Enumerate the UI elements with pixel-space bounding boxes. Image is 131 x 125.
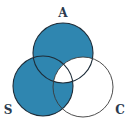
- label-c: C: [115, 103, 125, 117]
- venn-diagram: A S C: [0, 0, 131, 125]
- label-s: S: [4, 103, 13, 117]
- venn-svg: A S C: [0, 0, 131, 125]
- label-a: A: [57, 6, 68, 20]
